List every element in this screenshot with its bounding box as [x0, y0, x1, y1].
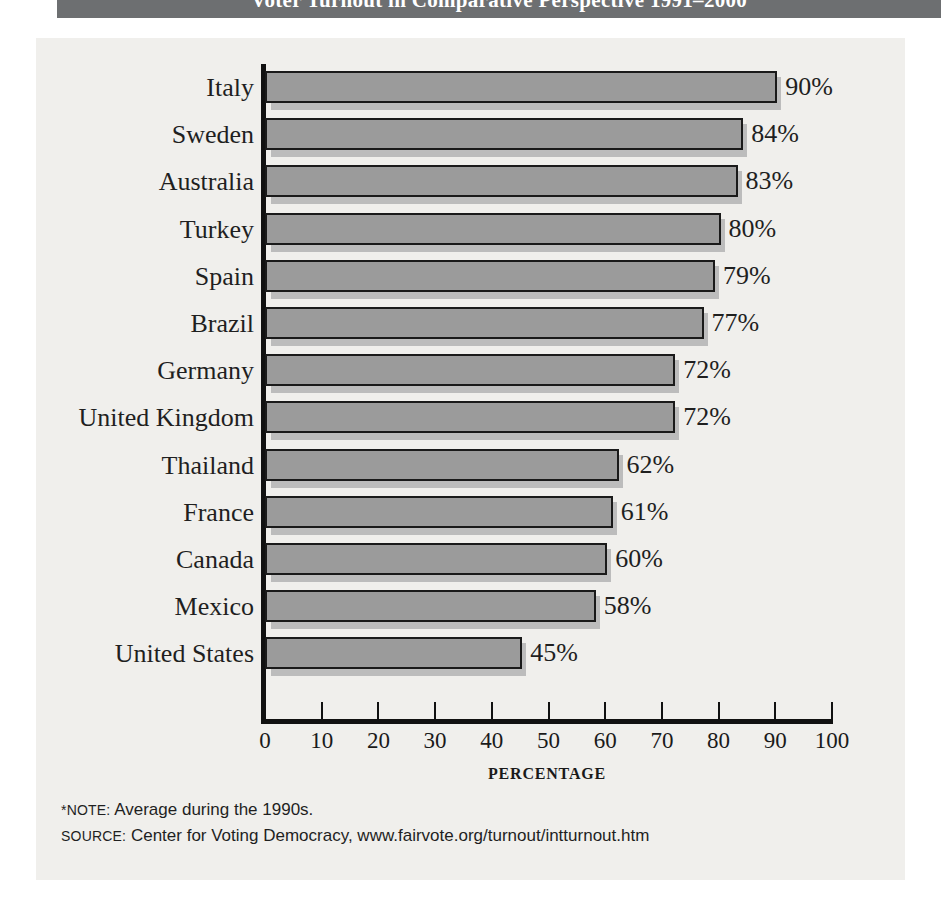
bar-value-label: 79%: [723, 259, 771, 293]
x-tick-label-90: 90: [764, 728, 787, 754]
bar-canada: [265, 543, 607, 575]
bar-value-label: 60%: [615, 542, 663, 576]
x-tick-label-80: 80: [707, 728, 730, 754]
category-label-thailand: Thailand: [162, 446, 254, 486]
bar-brazil: [265, 307, 704, 339]
x-tick-label-70: 70: [650, 728, 673, 754]
bar-value-label: 62%: [627, 448, 675, 482]
category-label-turkey: Turkey: [180, 210, 254, 250]
bar-value-label: 77%: [712, 306, 760, 340]
bar-value-label: 72%: [683, 400, 731, 434]
bar-row: United Kingdom72%: [36, 398, 905, 438]
category-label-spain: Spain: [195, 257, 254, 297]
category-label-france: France: [183, 493, 254, 533]
category-label-italy: Italy: [206, 68, 254, 108]
note-label: *NOTE:: [61, 802, 110, 818]
category-label-mexico: Mexico: [175, 587, 254, 627]
bar-value-label: 80%: [729, 212, 777, 246]
figure-panel: 0102030405060708090100 Italy90%Sweden84%…: [36, 38, 905, 880]
bar-value-label: 90%: [785, 70, 833, 104]
bar-row: United States45%: [36, 634, 905, 674]
bar-value-label: 61%: [621, 495, 669, 529]
bar-row: Australia83%: [36, 162, 905, 202]
bar-united-kingdom: [265, 401, 675, 433]
x-tick-label-0: 0: [259, 728, 271, 754]
x-tick-label-20: 20: [367, 728, 390, 754]
bar-row: Sweden84%: [36, 115, 905, 155]
x-tick-10: [321, 702, 323, 719]
bar-turkey: [265, 213, 721, 245]
x-tick-100: [831, 702, 833, 719]
x-tick-label-10: 10: [310, 728, 333, 754]
bar-value-label: 58%: [604, 589, 652, 623]
bar-value-label: 45%: [530, 636, 578, 670]
bar-sweden: [265, 118, 743, 150]
bar-australia: [265, 165, 738, 197]
bar-row: Turkey80%: [36, 210, 905, 250]
bar-italy: [265, 71, 777, 103]
bar-united-states: [265, 637, 522, 669]
bar-thailand: [265, 449, 619, 481]
header-band: Voter Turnout in Comparative Perspective…: [57, 0, 941, 18]
bar-row: Italy90%: [36, 68, 905, 108]
plot-area: 0102030405060708090100 Italy90%Sweden84%…: [36, 38, 905, 880]
bar-row: Brazil77%: [36, 304, 905, 344]
x-tick-20: [377, 702, 379, 719]
figure-page: Voter Turnout in Comparative Perspective…: [0, 0, 941, 914]
category-label-sweden: Sweden: [172, 115, 254, 155]
source-text: Center for Voting Democracy, www.fairvot…: [126, 826, 649, 845]
bar-row: Germany72%: [36, 351, 905, 391]
category-label-brazil: Brazil: [190, 304, 254, 344]
chart-title: Voter Turnout in Comparative Perspective…: [57, 0, 941, 12]
bar-row: Spain79%: [36, 257, 905, 297]
x-tick-label-50: 50: [537, 728, 560, 754]
x-tick-60: [604, 702, 606, 719]
x-tick-0: [264, 702, 266, 719]
x-tick-label-60: 60: [594, 728, 617, 754]
bar-mexico: [265, 590, 596, 622]
category-label-united-kingdom: United Kingdom: [79, 398, 255, 438]
note-text: Average during the 1990s.: [110, 800, 313, 819]
x-tick-80: [718, 702, 720, 719]
bar-france: [265, 496, 613, 528]
x-tick-label-30: 30: [424, 728, 447, 754]
source-label: SOURCE:: [61, 828, 126, 844]
bar-value-label: 72%: [683, 353, 731, 387]
x-tick-30: [434, 702, 436, 719]
bar-value-label: 84%: [751, 117, 799, 151]
bar-row: Mexico58%: [36, 587, 905, 627]
x-axis-title: PERCENTAGE: [261, 765, 833, 783]
bar-row: Canada60%: [36, 540, 905, 580]
x-axis-line: [261, 719, 833, 724]
bar-row: France61%: [36, 493, 905, 533]
bar-spain: [265, 260, 715, 292]
x-tick-label-40: 40: [480, 728, 503, 754]
category-label-united-states: United States: [115, 634, 254, 674]
x-tick-90: [774, 702, 776, 719]
x-tick-70: [661, 702, 663, 719]
bar-germany: [265, 354, 675, 386]
footnote-note: *NOTE: Average during the 1990s.: [61, 800, 881, 820]
bar-row: Thailand62%: [36, 446, 905, 486]
x-tick-50: [548, 702, 550, 719]
category-label-germany: Germany: [157, 351, 254, 391]
footnote-source: SOURCE: Center for Voting Democracy, www…: [61, 826, 881, 846]
bar-value-label: 83%: [746, 164, 794, 198]
category-label-canada: Canada: [176, 540, 254, 580]
category-label-australia: Australia: [159, 162, 254, 202]
x-tick-40: [491, 702, 493, 719]
x-tick-label-100: 100: [815, 728, 850, 754]
footnotes: *NOTE: Average during the 1990s. SOURCE:…: [61, 800, 881, 852]
